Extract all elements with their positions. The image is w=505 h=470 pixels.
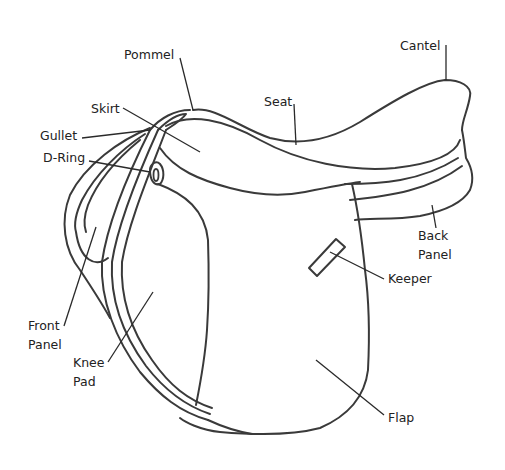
label-back-panel: Back Panel xyxy=(418,226,452,264)
leader-front-panel xyxy=(64,227,96,326)
seat-outline xyxy=(193,80,470,141)
label-seat: Seat xyxy=(264,92,292,111)
label-cantel: Cantel xyxy=(400,36,440,55)
label-flap: Flap xyxy=(388,408,414,427)
leader-lines xyxy=(64,45,446,415)
seat-lower-outline xyxy=(166,119,460,169)
label-skirt: Skirt xyxy=(91,99,120,118)
label-pommel: Pommel xyxy=(124,45,174,64)
leader-keeper xyxy=(330,252,384,279)
leader-d-ring xyxy=(89,161,150,172)
leader-pommel xyxy=(180,58,193,110)
label-d-ring: D-Ring xyxy=(43,148,85,167)
waist-outline xyxy=(160,148,360,195)
label-knee-pad: Knee Pad xyxy=(73,353,105,391)
label-keeper: Keeper xyxy=(388,269,432,288)
back-panel-outline xyxy=(345,158,462,200)
label-gullet: Gullet xyxy=(40,126,77,145)
front-panel-inner xyxy=(75,134,145,262)
d-ring-hole xyxy=(154,169,159,181)
cantle-back-outline xyxy=(355,130,472,220)
knee-pad-outline xyxy=(158,184,209,405)
leader-seat xyxy=(294,104,296,145)
label-front-panel: Front Panel xyxy=(28,316,62,354)
leader-back-panel xyxy=(432,205,436,228)
